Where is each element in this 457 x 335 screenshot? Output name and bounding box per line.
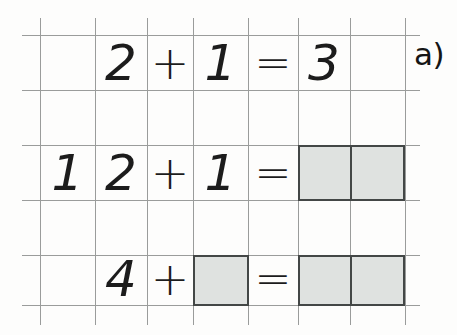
problem-3-digit-4: 4 [95, 253, 147, 305]
problem-1-digit-2: 2 [95, 35, 147, 90]
problem-1-digit-1: 1 [193, 35, 248, 90]
answer-box-problem-3-divider [350, 257, 352, 304]
addend-box-problem-3[interactable] [193, 255, 249, 306]
grid-vline-8 [405, 18, 406, 325]
answer-box-problem-2-divider [350, 147, 352, 199]
problem-2-digit-ones: 2 [95, 145, 147, 200]
problem-1-digit-3: 3 [298, 35, 350, 90]
problem-2-equals-operator: = [248, 145, 298, 200]
exercise-label: a) [414, 36, 444, 72]
problem-2-digit-1: 1 [193, 145, 248, 200]
problem-3-equals-operator: = [248, 253, 298, 305]
math-worksheet: 2 + 1 = 3 1 2 + 1 = 4 + = a) [0, 0, 457, 335]
problem-2-digit-tens: 1 [40, 145, 95, 200]
problem-1-plus-operator: + [147, 35, 193, 90]
problem-1-equals-operator: = [248, 35, 298, 90]
problem-3-plus-operator: + [147, 253, 193, 305]
problem-2-plus-operator: + [147, 145, 193, 200]
